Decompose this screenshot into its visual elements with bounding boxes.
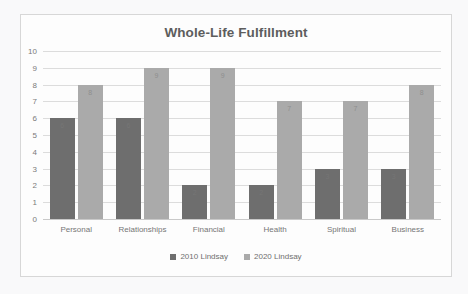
category-label: Spiritual — [308, 225, 374, 234]
y-axis-tick-label: 2 — [33, 181, 37, 190]
legend-label: 2020 Lindsay — [254, 252, 302, 261]
chart-title: Whole-Life Fulfillment — [21, 25, 451, 40]
legend-swatch-icon — [244, 254, 250, 260]
legend-item[interactable]: 2010 Lindsay — [170, 252, 228, 261]
bar[interactable]: 6 — [50, 118, 75, 219]
bar[interactable]: 6 — [116, 118, 141, 219]
category-label: Personal — [43, 225, 109, 234]
bar[interactable]: 3 — [315, 169, 340, 219]
bar-group: 37 — [308, 51, 374, 219]
bar[interactable]: 2 — [182, 185, 207, 219]
bar-value-label: 7 — [277, 105, 302, 112]
category-label: Relationships — [109, 225, 175, 234]
category-axis: PersonalRelationshipsFinancialHealthSpir… — [43, 225, 441, 234]
bar[interactable]: 7 — [277, 101, 302, 219]
gridline: 0 — [43, 219, 441, 220]
bar-group: 69 — [109, 51, 175, 219]
bar[interactable]: 9 — [210, 68, 235, 219]
bar-group: 29 — [176, 51, 242, 219]
bar-group: 68 — [43, 51, 109, 219]
bar-series-container: 686929273738 — [43, 51, 441, 219]
bar[interactable]: 9 — [144, 68, 169, 219]
y-axis-tick-label: 10 — [28, 47, 37, 56]
bar-group: 27 — [242, 51, 308, 219]
bar-value-label: 9 — [210, 72, 235, 79]
bar[interactable]: 7 — [343, 101, 368, 219]
bar-value-label: 8 — [409, 89, 434, 96]
bar-value-label: 2 — [249, 189, 274, 196]
bar[interactable]: 2 — [249, 185, 274, 219]
y-axis-tick-label: 1 — [33, 198, 37, 207]
y-axis-tick-label: 3 — [33, 164, 37, 173]
bar[interactable]: 8 — [78, 85, 103, 219]
bar[interactable]: 3 — [381, 169, 406, 219]
bar-value-label: 6 — [50, 122, 75, 129]
y-axis-tick-label: 0 — [33, 215, 37, 224]
legend-swatch-icon — [170, 254, 176, 260]
bar-value-label: 3 — [315, 173, 340, 180]
y-axis-tick-label: 6 — [33, 114, 37, 123]
legend-label: 2010 Lindsay — [180, 252, 228, 261]
legend-item[interactable]: 2020 Lindsay — [244, 252, 302, 261]
bar-group: 38 — [375, 51, 441, 219]
y-axis-tick-label: 5 — [33, 131, 37, 140]
plot-area: 109876543210 686929273738 — [43, 51, 441, 219]
bar-value-label: 2 — [182, 189, 207, 196]
category-label: Financial — [176, 225, 242, 234]
bar-value-label: 8 — [78, 89, 103, 96]
y-axis-tick-label: 7 — [33, 97, 37, 106]
y-axis-tick-label: 9 — [33, 63, 37, 72]
bar[interactable]: 8 — [409, 85, 434, 219]
bar-value-label: 7 — [343, 105, 368, 112]
bar-value-label: 3 — [381, 173, 406, 180]
chart-frame: Whole-Life Fulfillment 109876543210 6869… — [20, 14, 452, 277]
y-axis-tick-label: 4 — [33, 147, 37, 156]
category-label: Business — [375, 225, 441, 234]
bar-value-label: 6 — [116, 122, 141, 129]
y-axis-tick-label: 8 — [33, 80, 37, 89]
category-label: Health — [242, 225, 308, 234]
chart-legend: 2010 Lindsay2020 Lindsay — [21, 252, 451, 261]
bar-value-label: 9 — [144, 72, 169, 79]
